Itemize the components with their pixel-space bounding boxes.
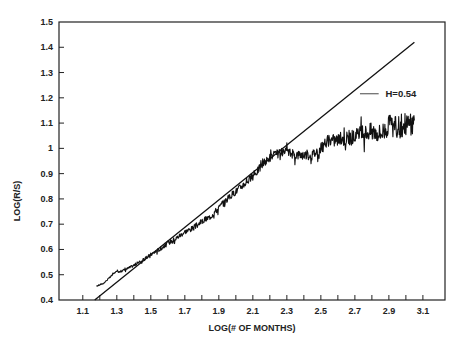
empirical-curve: [96, 113, 414, 286]
y-tick-label: 1.2: [40, 93, 53, 103]
y-tick-label: 0.5: [40, 270, 53, 280]
x-tick-label: 2.9: [383, 306, 396, 316]
x-tick-label: 3.1: [417, 306, 430, 316]
x-axis: 1.11.31.51.71.92.12.32.52.72.93.1: [77, 295, 430, 316]
x-tick-label: 1.5: [145, 306, 158, 316]
rs-analysis-chart: 0.40.50.60.70.80.911.11.21.31.41.5 1.11.…: [0, 0, 469, 344]
y-tick-label: 0.7: [40, 219, 53, 229]
y-tick-label: 1: [48, 143, 53, 153]
x-tick-label: 2.7: [349, 306, 362, 316]
y-tick-label: 0.8: [40, 194, 53, 204]
x-tick-label: 1.1: [77, 306, 90, 316]
y-tick-label: 0.4: [40, 295, 53, 305]
series-layer: [95, 42, 415, 300]
y-tick-label: 1.1: [40, 118, 53, 128]
x-tick-label: 1.3: [111, 306, 124, 316]
y-axis: 0.40.50.60.70.80.911.11.21.31.41.5: [40, 17, 64, 305]
y-tick-label: 0.9: [40, 169, 53, 179]
y-tick-label: 1.3: [40, 68, 53, 78]
annotation-layer: H=0.54: [360, 88, 417, 99]
y-axis-title: LOG(R/S): [12, 181, 22, 222]
x-axis-title: LOG(# OF MONTHS): [209, 323, 296, 333]
x-tick-label: 2.3: [281, 306, 294, 316]
y-tick-label: 1.4: [40, 42, 53, 52]
x-tick-label: 1.9: [213, 306, 226, 316]
y-tick-label: 1.5: [40, 17, 53, 27]
x-tick-label: 2.1: [247, 306, 260, 316]
x-tick-label: 2.5: [315, 306, 328, 316]
y-tick-label: 0.6: [40, 244, 53, 254]
hurst-exponent-label: H=0.54: [385, 88, 417, 99]
x-tick-label: 1.7: [179, 306, 192, 316]
